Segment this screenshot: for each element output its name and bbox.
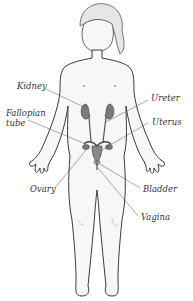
ovary-left	[83, 145, 90, 150]
ovary-right	[106, 145, 113, 150]
label-kidney: Kidney	[17, 81, 47, 91]
label-uterus: Uterus	[152, 117, 182, 127]
head	[82, 20, 113, 52]
label-vagina: Vagina	[141, 212, 170, 222]
label-fallopian-tube-line1: Fallopian	[6, 108, 46, 118]
label-ovary: Ovary	[30, 184, 56, 194]
body-outline	[29, 50, 164, 296]
label-ureter: Ureter	[151, 93, 180, 103]
label-bladder: Bladder	[143, 184, 177, 194]
body-diagram	[0, 0, 193, 301]
label-fallopian-tube-line2: tube	[6, 118, 25, 128]
